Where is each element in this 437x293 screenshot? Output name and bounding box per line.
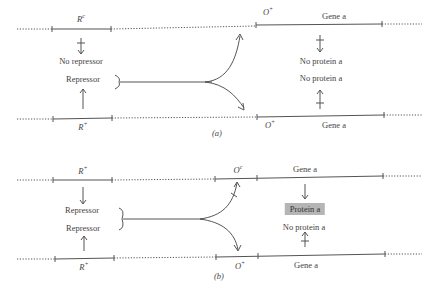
panel-a-blocked-arrow-up-right: [316, 90, 324, 109]
panel-b-bottom-strand: [17, 251, 422, 262]
panel-a-bottom-gene-label: Gene a: [322, 120, 346, 130]
panel-a-no-protein-top-label: No protein a: [300, 56, 343, 66]
panel-a-repressor-label: Repressor: [66, 74, 100, 84]
panel-b-protein-label: Protein a: [285, 203, 325, 215]
diagram-canvas: [0, 0, 437, 293]
panel-b-repressor-fork: [119, 182, 241, 251]
panel-b-arrow-up: [81, 236, 87, 251]
panel-a-repressor-fork: [115, 34, 244, 110]
panel-a-blocked-arrow-down-right: [316, 35, 324, 52]
panel-a-top-regulator-label: Rc: [77, 13, 85, 24]
panel-b-no-protein-label: No protein a: [283, 222, 326, 232]
panel-a-arrow-up: [80, 89, 86, 109]
panel-a-top-gene-label: Gene a: [322, 11, 346, 21]
panel-b-bottom-regulator-label: R+: [79, 261, 88, 272]
panel-a-bottom-operator-label: O+: [265, 119, 275, 130]
panel-a-top-operator-label: O+: [263, 6, 273, 17]
panel-a-caption: (a): [212, 128, 222, 138]
panel-b-bottom-operator-label: O+: [235, 260, 245, 271]
panel-b-top-regulator-label: R+: [78, 165, 87, 176]
panel-b-repressor-top-label: Repressor: [65, 205, 99, 215]
panel-a-blocked-arrow-down: [77, 38, 85, 54]
panel-b-top-gene-label: Gene a: [293, 164, 317, 174]
panel-b-bottom-gene-label: Gene a: [294, 260, 318, 270]
panel-a-no-protein-bottom-label: No protein a: [300, 73, 343, 83]
panel-b-top-operator-label: Oc: [234, 164, 243, 175]
panel-b-repressor-bottom-label: Repressor: [66, 223, 100, 233]
panel-b-arrow-down-right: [302, 184, 308, 199]
panel-b-blocked-arrow-up-right: [301, 232, 309, 247]
panel-b-arrow-down: [80, 187, 86, 204]
panel-a-bottom-regulator-label: R+: [78, 121, 87, 132]
panel-b-caption: (b): [214, 271, 224, 281]
panel-a-no-repressor-label: No repressor: [59, 56, 103, 66]
